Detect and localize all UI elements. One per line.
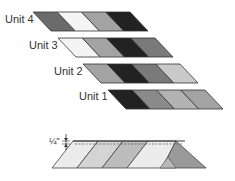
unit-2-strip: [83, 64, 198, 83]
unit-3-strip: [58, 38, 173, 57]
unit-1-strip: [108, 90, 223, 109]
seam-allowance-label: ¼": [49, 136, 60, 146]
quilt-diagram: [0, 0, 235, 181]
unit-strips: [33, 12, 223, 109]
unit-4-strip: [33, 12, 148, 31]
seam-allowance-diagram: [52, 134, 206, 168]
